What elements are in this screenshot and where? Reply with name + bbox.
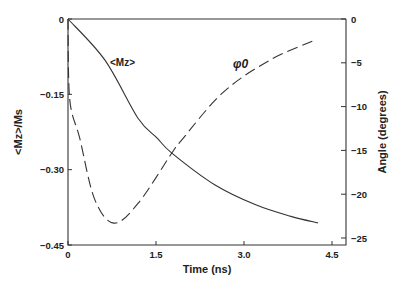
left-y-tick-label: −0.30 bbox=[40, 164, 64, 175]
data-series bbox=[68, 19, 318, 223]
mz-curve bbox=[68, 19, 318, 223]
mz-series-label: <Mz> bbox=[110, 57, 135, 68]
right-y-tick-label: −25 bbox=[351, 233, 368, 244]
right-y-axis-ticks: 0−5−10−15−20−25 bbox=[341, 14, 368, 244]
left-y-tick-label: −0.15 bbox=[40, 89, 65, 100]
x-axis-title: Time (ns) bbox=[183, 263, 232, 275]
phi-series-label: φ0 bbox=[233, 57, 248, 71]
right-y-tick-label: −20 bbox=[351, 189, 367, 200]
right-y-tick-label: 0 bbox=[351, 14, 356, 25]
right-y-tick-label: −5 bbox=[351, 57, 363, 68]
right-y-tick-label: −15 bbox=[351, 145, 368, 156]
right-y-tick-label: −10 bbox=[351, 101, 367, 112]
x-axis-ticks: 01.53.04.5 bbox=[65, 241, 339, 260]
left-y-tick-label: −0.45 bbox=[40, 240, 65, 251]
x-tick-label: 3.0 bbox=[237, 249, 250, 260]
phi0-curve bbox=[68, 19, 315, 223]
left-y-axis-title: <Mz>/Ms bbox=[12, 109, 24, 155]
x-tick-label: 0 bbox=[65, 249, 70, 260]
x-tick-label: 4.5 bbox=[325, 249, 339, 260]
x-tick-label: 1.5 bbox=[149, 249, 163, 260]
chart-canvas: 01.53.04.5 0−0.15−0.30−0.45 0−5−10−15−20… bbox=[0, 0, 399, 293]
left-y-axis-ticks: 0−0.15−0.30−0.45 bbox=[40, 14, 72, 251]
plot-frame bbox=[68, 19, 346, 245]
left-y-tick-label: 0 bbox=[59, 14, 64, 25]
right-y-axis-title: Angle (degrees) bbox=[376, 90, 388, 173]
